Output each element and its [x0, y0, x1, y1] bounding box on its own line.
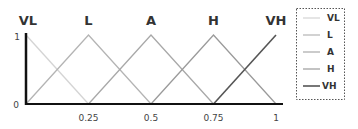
series-lines [26, 35, 276, 104]
x-ticks: 0.250.50.751 [78, 113, 278, 123]
y-tick-0: 0 [13, 100, 19, 110]
series-l-line [26, 35, 151, 104]
x-tick-label: 1 [273, 113, 279, 123]
x-tick-label: 0.25 [78, 113, 98, 123]
series-h-line [151, 35, 276, 104]
top-label: VL [19, 13, 37, 28]
series-a-line [89, 35, 214, 104]
top-label: VH [266, 13, 287, 28]
x-tick-label: 0.5 [144, 113, 158, 123]
top-label: H [208, 13, 219, 28]
legend-label: L [327, 30, 333, 40]
legend-label: VL [327, 13, 340, 23]
x-tick-label: 0.75 [203, 113, 223, 123]
legend-label: A [327, 47, 334, 57]
top-labels: VLLAHVH [19, 13, 287, 28]
top-label: L [84, 13, 92, 28]
legend-label: H [327, 64, 335, 74]
legend-label: VH [322, 81, 337, 91]
fuzzy-membership-chart: 1 0 0.250.50.751 VLLAHVH VLLAHVH [0, 0, 358, 129]
top-label: A [146, 13, 156, 28]
legend: VLLAHVH [303, 13, 340, 91]
y-tick-1: 1 [14, 32, 20, 42]
